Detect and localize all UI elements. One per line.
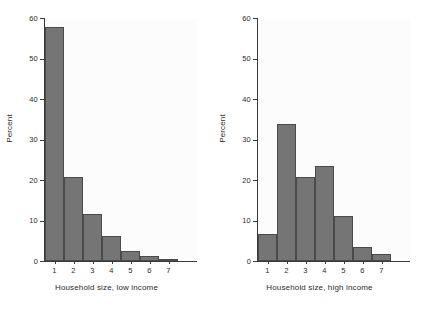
y-tick-label-high-income-10: 10 xyxy=(213,216,251,225)
bar-high-income-4 xyxy=(315,166,334,261)
bar-high-income-7 xyxy=(372,254,391,261)
x-tick-low-income-5 xyxy=(131,261,132,264)
bar-high-income-5 xyxy=(334,216,353,261)
panel-high-income: 0102030405060 1234567 Percent Household … xyxy=(213,0,426,313)
y-axis-line-high-income xyxy=(257,18,258,262)
bar-high-income-2 xyxy=(277,124,296,261)
y-tick-low-income-20 xyxy=(40,180,44,181)
x-tick-label-high-income-2: 2 xyxy=(279,266,295,275)
y-tick-label-high-income-20: 20 xyxy=(213,176,251,185)
y-tick-high-income-50 xyxy=(253,59,257,60)
x-tick-high-income-3 xyxy=(306,261,307,264)
y-tick-low-income-0 xyxy=(40,261,44,262)
bar-high-income-3 xyxy=(296,177,315,261)
bar-high-income-6 xyxy=(353,247,372,261)
x-tick-low-income-6 xyxy=(150,261,151,264)
y-tick-label-low-income-50: 50 xyxy=(0,54,38,63)
x-tick-label-low-income-3: 3 xyxy=(85,266,101,275)
x-tick-low-income-3 xyxy=(93,261,94,264)
x-tick-label-low-income-7: 7 xyxy=(161,266,177,275)
y-tick-low-income-10 xyxy=(40,221,44,222)
bar-low-income-3 xyxy=(83,214,102,261)
panel-low-income: 0102030405060 1234567 Percent Household … xyxy=(0,0,213,313)
x-axis-line-high-income xyxy=(257,261,410,262)
x-tick-low-income-4 xyxy=(112,261,113,264)
x-tick-label-low-income-5: 5 xyxy=(123,266,139,275)
y-tick-label-high-income-60: 60 xyxy=(213,14,251,23)
y-tick-low-income-40 xyxy=(40,99,44,100)
x-tick-label-low-income-1: 1 xyxy=(47,266,63,275)
x-tick-high-income-7 xyxy=(382,261,383,264)
x-tick-label-high-income-5: 5 xyxy=(336,266,352,275)
y-tick-high-income-0 xyxy=(253,261,257,262)
y-tick-low-income-50 xyxy=(40,59,44,60)
y-tick-high-income-10 xyxy=(253,221,257,222)
y-tick-high-income-30 xyxy=(253,140,257,141)
x-tick-low-income-1 xyxy=(55,261,56,264)
x-tick-high-income-6 xyxy=(363,261,364,264)
x-tick-label-low-income-2: 2 xyxy=(66,266,82,275)
x-tick-label-low-income-6: 6 xyxy=(142,266,158,275)
x-tick-label-high-income-6: 6 xyxy=(355,266,371,275)
x-tick-high-income-1 xyxy=(268,261,269,264)
x-axis-title-high-income: Household size, high income xyxy=(213,283,426,292)
y-tick-label-low-income-0: 0 xyxy=(0,257,38,266)
x-axis-line-low-income xyxy=(44,261,197,262)
x-axis-title-low-income: Household size, low income xyxy=(0,283,213,292)
y-tick-label-low-income-10: 10 xyxy=(0,216,38,225)
bar-low-income-1 xyxy=(45,27,64,261)
x-tick-label-low-income-4: 4 xyxy=(104,266,120,275)
y-axis-title-low-income: Percent xyxy=(5,99,14,159)
bar-low-income-5 xyxy=(121,251,140,261)
y-axis-title-high-income: Percent xyxy=(218,99,227,159)
histogram-figure: 0102030405060 1234567 Percent Household … xyxy=(0,0,426,313)
y-tick-label-low-income-20: 20 xyxy=(0,176,38,185)
x-tick-high-income-2 xyxy=(287,261,288,264)
bar-high-income-1 xyxy=(258,234,277,261)
x-tick-high-income-4 xyxy=(325,261,326,264)
x-tick-low-income-7 xyxy=(169,261,170,264)
y-tick-label-low-income-60: 60 xyxy=(0,14,38,23)
x-tick-label-high-income-1: 1 xyxy=(260,266,276,275)
bar-low-income-2 xyxy=(64,177,83,261)
x-tick-label-high-income-3: 3 xyxy=(298,266,314,275)
x-tick-label-high-income-7: 7 xyxy=(374,266,390,275)
y-tick-low-income-60 xyxy=(40,18,44,19)
x-tick-low-income-2 xyxy=(74,261,75,264)
y-tick-label-high-income-0: 0 xyxy=(213,257,251,266)
y-tick-high-income-40 xyxy=(253,99,257,100)
y-tick-high-income-20 xyxy=(253,180,257,181)
x-tick-high-income-5 xyxy=(344,261,345,264)
y-tick-low-income-30 xyxy=(40,140,44,141)
x-tick-label-high-income-4: 4 xyxy=(317,266,333,275)
y-tick-high-income-60 xyxy=(253,18,257,19)
bar-low-income-4 xyxy=(102,236,121,261)
y-tick-label-high-income-50: 50 xyxy=(213,54,251,63)
